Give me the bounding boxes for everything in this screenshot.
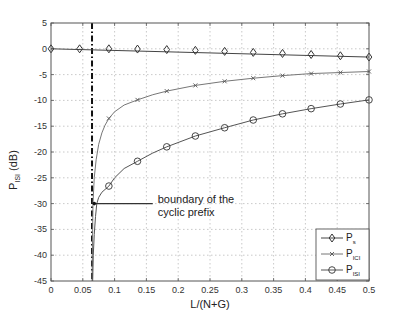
x-tick-label: 0.05	[74, 285, 92, 295]
x-axis-label: L/(N+G)	[190, 298, 229, 310]
y-axis-label-main: P	[7, 183, 19, 190]
annotation-arrowhead	[92, 202, 96, 206]
annotation-text-line1: boundary of the	[158, 193, 234, 205]
y-tick-label: -30	[34, 199, 47, 209]
y-tick-label: 0	[42, 44, 47, 54]
y-tick-label: -15	[34, 121, 47, 131]
x-tick-label: 0.35	[265, 285, 283, 295]
x-tick-label: 0	[48, 285, 53, 295]
x-tick-label: 0.25	[201, 285, 219, 295]
y-tick-label: 5	[42, 18, 47, 28]
y-axis-label-sub: ISI	[14, 174, 21, 183]
isi-power-chart: 50-5-10-15-20-25-30-35-40-45 00.050.10.1…	[0, 0, 395, 320]
y-tick-label: -35	[34, 224, 47, 234]
y-tick-label: -40	[34, 250, 47, 260]
legend-label-sub: ICI	[353, 255, 361, 261]
y-tick-label: -10	[34, 95, 47, 105]
legend-label-sub: s	[353, 239, 356, 245]
x-tick-label: 0.1	[108, 285, 121, 295]
annotation-text-line2: cyclic prefix	[158, 206, 215, 218]
x-tick-label: 0.3	[236, 285, 249, 295]
y-tick-label: -20	[34, 147, 47, 157]
x-tick-label: 0.5	[363, 285, 376, 295]
y-tick-label: -45	[34, 276, 47, 286]
x-tick-label: 0.4	[299, 285, 312, 295]
x-tick-label: 0.15	[138, 285, 156, 295]
y-tick-label: -5	[39, 70, 47, 80]
legend: PsPICIPISI	[316, 229, 369, 280]
y-axis-label: PISI (dB)	[7, 150, 21, 190]
legend-label-sub: ISI	[353, 271, 361, 277]
x-tick-label: 0.2	[172, 285, 185, 295]
x-tick-label: 0.45	[328, 285, 346, 295]
y-axis-label-unit: (dB)	[7, 150, 19, 174]
y-tick-label: -25	[34, 173, 47, 183]
